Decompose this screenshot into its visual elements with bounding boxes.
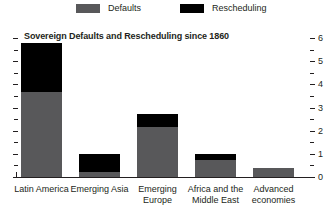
left-tick-major (13, 84, 18, 85)
right-tick-major (310, 84, 315, 85)
bar-group (195, 154, 236, 177)
bar-segment-defaults (79, 172, 120, 177)
right-tick-major (310, 131, 315, 132)
right-tick-label: 2 (318, 127, 323, 136)
bar-stack (21, 43, 62, 177)
right-tick-major (310, 61, 315, 62)
left-tick-major (13, 108, 18, 109)
left-tick-minor (14, 73, 18, 74)
category-label: Africa and the Middle East (185, 184, 246, 205)
bar-group (79, 154, 120, 177)
right-tick-minor (310, 73, 314, 74)
right-tick-label: 3 (318, 104, 323, 113)
category-label: Advanced economies (243, 184, 304, 205)
left-tick-minor (14, 96, 18, 97)
bar-segment-defaults (21, 92, 62, 177)
bar-group (137, 114, 178, 177)
right-tick-major (310, 154, 315, 155)
right-tick-minor (310, 50, 314, 51)
bar-group (253, 168, 294, 177)
right-tick-minor (310, 165, 314, 166)
left-tick-minor (14, 119, 18, 120)
right-tick-major (310, 38, 315, 39)
category-label: Emerging Europe (127, 184, 188, 205)
left-tick-major (13, 154, 18, 155)
right-tick-minor (310, 119, 314, 120)
right-tick-minor (310, 142, 314, 143)
left-tick-minor (14, 165, 18, 166)
bar-segment-rescheduling (137, 114, 178, 127)
bar-stack (253, 168, 294, 177)
bar-stack (137, 114, 178, 177)
left-tick-major (13, 61, 18, 62)
left-tick-minor (14, 142, 18, 143)
right-tick-label: 0 (318, 173, 323, 182)
bar-stack (79, 154, 120, 177)
plot-area: Sovereign Defaults and Rescheduling sinc… (0, 0, 334, 224)
bar-segment-rescheduling (79, 154, 120, 173)
left-tick-major (13, 38, 18, 39)
bar-segment-defaults (253, 168, 294, 177)
right-tick-label: 5 (318, 57, 323, 66)
bar-group (21, 43, 62, 177)
right-tick-label: 1 (318, 150, 323, 159)
bar-stack (195, 154, 236, 177)
chart-title: Sovereign Defaults and Rescheduling sinc… (24, 31, 229, 42)
right-tick-minor (310, 96, 314, 97)
category-label: Emerging Asia (69, 184, 130, 195)
category-label: Latin America (11, 184, 72, 195)
axis-baseline (16, 177, 315, 178)
right-tick-label: 4 (318, 80, 323, 89)
left-tick-major (13, 131, 18, 132)
bar-segment-defaults (195, 160, 236, 177)
left-tick-minor (14, 50, 18, 51)
bar-segment-rescheduling (21, 43, 62, 93)
right-tick-label: 6 (318, 34, 323, 43)
chart-figure: Defaults Rescheduling Sovereign Defaults… (0, 0, 334, 224)
bar-segment-defaults (137, 127, 178, 177)
right-tick-major (310, 108, 315, 109)
